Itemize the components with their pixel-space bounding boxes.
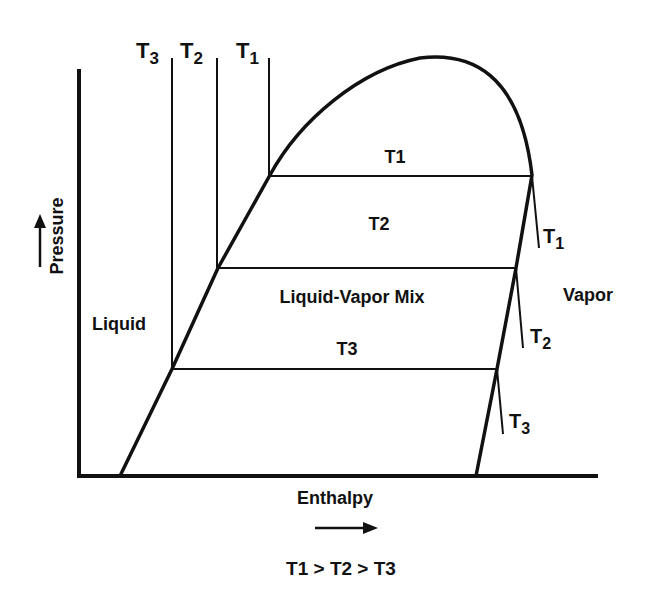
- label-t2-vapor: T2: [530, 325, 551, 352]
- temperature-relation: T1 > T2 > T3: [286, 558, 396, 579]
- label-t1-vapor: T1: [543, 225, 564, 252]
- pressure-enthalpy-diagram: T3 T2 T1 T1 T2 T3 T1 T2 T3 Liquid Liquid…: [0, 0, 661, 599]
- label-t3-mix: T3: [336, 339, 357, 359]
- label-t1-mix: T1: [384, 147, 405, 167]
- label-t2-liquid: T2: [180, 38, 203, 68]
- y-axis-label: Pressure: [47, 197, 67, 274]
- label-t3-liquid: T3: [136, 38, 159, 68]
- x-axis-label: Enthalpy: [297, 488, 373, 508]
- right-arrow-icon: [315, 522, 378, 534]
- region-vapor-label: Vapor: [563, 285, 613, 305]
- isotherm-t1-vapor: [532, 176, 539, 248]
- label-t1-liquid: T1: [236, 38, 259, 68]
- saturation-dome: [120, 57, 532, 476]
- region-mix-label: Liquid-Vapor Mix: [279, 287, 424, 307]
- up-arrow-icon: [34, 214, 46, 267]
- isotherm-t3-vapor: [497, 369, 503, 434]
- isotherm-t2-vapor: [516, 268, 523, 348]
- region-liquid-label: Liquid: [92, 314, 146, 334]
- label-t2-mix: T2: [368, 214, 389, 234]
- label-t3-vapor: T3: [509, 410, 530, 437]
